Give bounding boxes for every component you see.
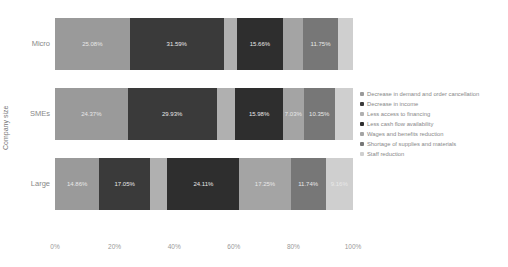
legend-swatch-icon <box>360 92 364 96</box>
bar-segment[interactable]: 14.86% <box>55 158 99 210</box>
bar-segment[interactable]: 15.66% <box>237 18 284 70</box>
bar-segment[interactable]: 17.05% <box>99 158 150 210</box>
x-tick-label: 80% <box>287 243 300 250</box>
legend-label: Decrease in demand and order cancellatio… <box>367 91 479 97</box>
bar-segment[interactable]: 17.25% <box>239 158 290 210</box>
x-tick-label: 100% <box>345 243 362 250</box>
legend-item[interactable]: Decrease in income <box>360 99 479 109</box>
bar-segment[interactable] <box>217 88 235 140</box>
bar-segment[interactable] <box>335 88 353 140</box>
legend-item[interactable]: Less cash flow availability <box>360 119 479 129</box>
bar-segment[interactable]: 25.08% <box>55 18 130 70</box>
legend-item[interactable]: Decrease in demand and order cancellatio… <box>360 89 479 99</box>
bar-row-smes: 24.37%29.93%15.98%7.03%10.35% <box>55 88 353 140</box>
bar-row-large: 14.86%17.05%24.11%17.25%11.74%9.16% <box>55 158 353 210</box>
category-label: Micro <box>0 39 50 48</box>
bar-segment[interactable]: 7.03% <box>283 88 304 140</box>
bar-segment[interactable] <box>224 18 237 70</box>
x-tick-label: 40% <box>168 243 181 250</box>
bar-segment[interactable]: 31.59% <box>130 18 224 70</box>
bar-segment[interactable]: 11.74% <box>291 158 326 210</box>
legend-label: Less access to financing <box>367 111 430 117</box>
x-tick-label: 20% <box>108 243 121 250</box>
legend: Decrease in demand and order cancellatio… <box>360 89 479 159</box>
bar-segment[interactable]: 24.37% <box>55 88 128 140</box>
legend-swatch-icon <box>360 102 364 106</box>
legend-item[interactable]: Shortage of supplies and materials <box>360 139 479 149</box>
legend-label: Wages and benefits reduction <box>367 131 443 137</box>
legend-swatch-icon <box>360 132 364 136</box>
bar-segment[interactable] <box>283 18 303 70</box>
legend-label: Staff reduction <box>367 151 404 157</box>
legend-item[interactable]: Less access to financing <box>360 109 479 119</box>
legend-label: Shortage of supplies and materials <box>367 141 456 147</box>
bar-segment[interactable]: 29.93% <box>128 88 217 140</box>
legend-label: Less cash flow availability <box>367 121 433 127</box>
legend-item[interactable]: Wages and benefits reduction <box>360 129 479 139</box>
legend-item[interactable]: Staff reduction <box>360 149 479 159</box>
category-label: SMEs <box>0 109 50 118</box>
x-tick-label: 60% <box>227 243 240 250</box>
legend-swatch-icon <box>360 122 364 126</box>
x-tick-label: 0% <box>50 243 59 250</box>
bar-segment[interactable]: 10.35% <box>304 88 335 140</box>
legend-swatch-icon <box>360 152 364 156</box>
bar-segment[interactable]: 9.16% <box>326 158 353 210</box>
legend-label: Decrease in income <box>367 101 418 107</box>
bar-segment[interactable]: 11.75% <box>303 18 338 70</box>
category-label: Large <box>0 179 50 188</box>
bar-segment[interactable] <box>150 158 167 210</box>
bar-segment[interactable]: 15.98% <box>235 88 283 140</box>
bar-segment[interactable]: 24.11% <box>167 158 239 210</box>
bar-row-micro: 25.08%31.59%15.66%11.75% <box>55 18 353 70</box>
legend-swatch-icon <box>360 142 364 146</box>
bar-segment[interactable] <box>338 18 353 70</box>
legend-swatch-icon <box>360 112 364 116</box>
